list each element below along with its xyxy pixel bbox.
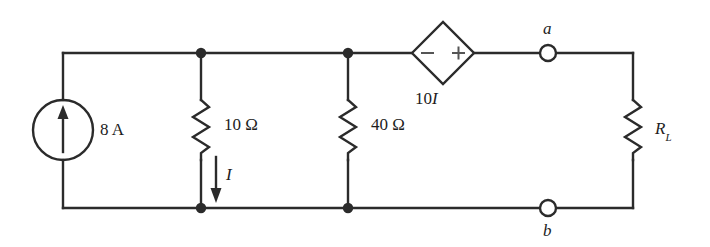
junction-dot-top-r2 bbox=[343, 48, 353, 58]
current-i-arrowhead bbox=[211, 188, 222, 203]
resistor-10-ohm-label: 10 Ω bbox=[224, 116, 258, 133]
terminal-b-circle bbox=[540, 200, 556, 216]
resistor-40-ohm-zigzag bbox=[340, 100, 356, 160]
current-source-label: 8 A bbox=[100, 121, 124, 138]
load-resistor-zigzag bbox=[625, 100, 641, 160]
load-resistor-label-subscript: L bbox=[665, 131, 671, 143]
load-resistor-label: RL bbox=[655, 120, 672, 140]
dependent-source-label-variable: I bbox=[432, 89, 438, 108]
terminal-a-circle bbox=[540, 45, 556, 61]
junction-dot-bottom-r1 bbox=[196, 203, 206, 213]
dependent-source-label: 10I bbox=[415, 90, 438, 107]
resistor-10-ohm-zigzag bbox=[193, 100, 209, 160]
current-i-label: I bbox=[226, 166, 232, 183]
current-source-arrowhead bbox=[58, 105, 69, 119]
terminal-a-label: a bbox=[543, 20, 552, 37]
load-resistor-label-main: R bbox=[655, 119, 665, 138]
junction-dot-top-r1 bbox=[196, 48, 206, 58]
terminal-b-label: b bbox=[543, 222, 552, 239]
junction-dot-bottom-r2 bbox=[343, 203, 353, 213]
dependent-source-label-prefix: 10 bbox=[415, 89, 432, 108]
resistor-40-ohm-label: 40 Ω bbox=[371, 116, 405, 133]
circuit-diagram: 8 A 10 Ω 40 Ω I 10I a b RL bbox=[0, 0, 710, 247]
